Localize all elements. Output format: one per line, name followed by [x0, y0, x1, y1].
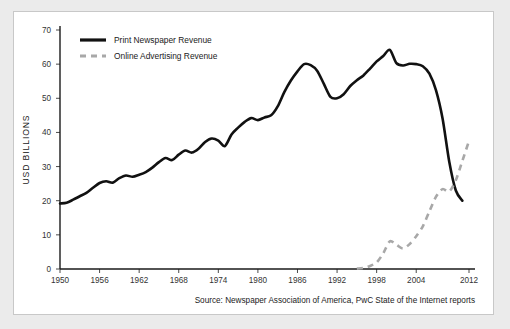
x-axis-tick-label: 2004	[407, 276, 426, 285]
x-axis-tick-label: 1992	[328, 276, 347, 285]
y-axis-tick-label: 60	[42, 60, 52, 69]
y-axis-tick-label: 10	[42, 231, 52, 240]
y-axis-tick-label: 0	[46, 265, 51, 274]
y-axis-tick-labels: 010203040506070	[42, 26, 52, 274]
x-axis-tick-label: 1986	[288, 276, 307, 285]
plot-area: 010203040506070 195019561962196819741980…	[14, 12, 493, 314]
x-axis-tick-labels: 1950195619621968197419801986199219982004…	[51, 276, 479, 285]
legend-label-online-advertising-revenue: Online Advertising Revenue	[114, 51, 218, 61]
y-axis-tick-label: 50	[42, 94, 52, 103]
x-axis-tick-label: 1968	[170, 276, 189, 285]
y-axis-title: USD BILLIONS	[21, 114, 31, 184]
y-axis-tick-label: 70	[42, 26, 52, 35]
x-axis-tick-label: 1956	[90, 276, 109, 285]
y-axis-tick-label: 20	[42, 197, 52, 206]
legend-label-print-newspaper-revenue: Print Newspaper Revenue	[114, 35, 212, 45]
x-axis-tick-label: 1980	[249, 276, 268, 285]
line-chart-svg: 010203040506070 195019561962196819741980…	[14, 12, 493, 314]
x-axis-tick-label: 1962	[130, 276, 149, 285]
series-line-print-newspaper-revenue	[60, 50, 462, 204]
y-axis-tick-label: 30	[42, 163, 52, 172]
chart-legend: Print Newspaper Revenue Online Advertisi…	[80, 35, 218, 61]
x-axis-tick-label: 2012	[460, 276, 479, 285]
y-axis-tick-label: 40	[42, 128, 52, 137]
source-note: Source: Newspaper Association of America…	[195, 296, 475, 305]
x-axis-tick-label: 1998	[368, 276, 387, 285]
series-line-online-advertising-revenue	[357, 141, 469, 269]
chart-figure: 010203040506070 195019561962196819741980…	[13, 11, 494, 315]
x-axis-tick-label: 1950	[51, 276, 70, 285]
x-axis-tick-label: 1974	[209, 276, 228, 285]
